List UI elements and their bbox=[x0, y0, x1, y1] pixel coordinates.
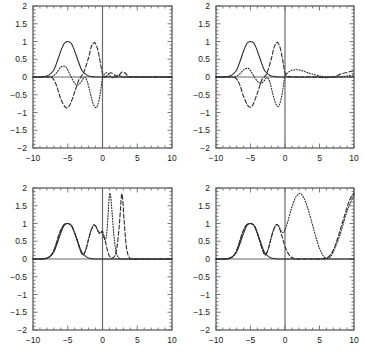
y-tick-label: −0.5 bbox=[193, 90, 210, 100]
plot-panel-bottom-right: 21.510.50−0.5−1−1.5−2−10−50510 bbox=[183, 181, 365, 363]
plot-panel-top-right: 21.510.50−0.5−1−1.5−2−10−50510 bbox=[183, 0, 365, 181]
y-tick-label: −0.5 bbox=[193, 272, 210, 282]
y-tick-label: −1.5 bbox=[193, 307, 210, 317]
x-tick-label: 0 bbox=[100, 335, 105, 345]
y-tick-label: 1.5 bbox=[198, 19, 210, 29]
y-tick-label: −0.5 bbox=[10, 90, 27, 100]
y-tick-label: 1 bbox=[205, 219, 210, 229]
y-tick-label: 2 bbox=[22, 1, 27, 11]
y-tick-label: 1.5 bbox=[15, 201, 27, 211]
x-tick-label: 5 bbox=[135, 335, 140, 345]
y-tick-label: −1 bbox=[17, 108, 27, 118]
x-tick-label: 10 bbox=[349, 335, 359, 345]
x-tick-label: −10 bbox=[26, 335, 41, 345]
y-tick-label: 0 bbox=[22, 72, 27, 82]
chart-bottom-left: 21.510.50−0.5−1−1.5−2−10−50510 bbox=[0, 181, 183, 363]
x-tick-label: −5 bbox=[246, 335, 256, 345]
x-tick-label: 0 bbox=[283, 335, 288, 345]
y-tick-label: 0 bbox=[22, 254, 27, 264]
y-tick-label: 1 bbox=[22, 37, 27, 47]
y-tick-label: −0.5 bbox=[10, 272, 27, 282]
y-tick-label: 2 bbox=[205, 1, 210, 11]
y-tick-label: −1.5 bbox=[10, 307, 27, 317]
y-tick-label: −1 bbox=[200, 108, 210, 118]
x-tick-label: 5 bbox=[317, 335, 322, 345]
x-tick-label: −10 bbox=[26, 153, 41, 163]
chart-top-left: 21.510.50−0.5−1−1.5−2−10−50510 bbox=[0, 0, 183, 181]
x-tick-label: 5 bbox=[135, 153, 140, 163]
y-tick-label: 1.5 bbox=[15, 19, 27, 29]
y-tick-label: 0 bbox=[205, 72, 210, 82]
x-tick-label: 5 bbox=[317, 153, 322, 163]
y-tick-label: 1.5 bbox=[198, 201, 210, 211]
x-tick-label: 10 bbox=[349, 153, 359, 163]
y-tick-label: −2 bbox=[200, 143, 210, 153]
x-tick-label: −5 bbox=[63, 153, 73, 163]
x-tick-label: −5 bbox=[63, 335, 73, 345]
x-tick-label: −5 bbox=[246, 153, 256, 163]
y-tick-label: −2 bbox=[17, 325, 27, 335]
x-tick-label: −10 bbox=[209, 153, 224, 163]
chart-bottom-right: 21.510.50−0.5−1−1.5−2−10−50510 bbox=[183, 181, 365, 363]
y-tick-label: 2 bbox=[22, 183, 27, 193]
figure-panel-grid: 21.510.50−0.5−1−1.5−2−10−50510 21.510.50… bbox=[0, 0, 365, 363]
x-tick-label: 10 bbox=[167, 153, 177, 163]
x-tick-label: 0 bbox=[283, 153, 288, 163]
y-tick-label: 0.5 bbox=[198, 236, 210, 246]
chart-top-right: 21.510.50−0.5−1−1.5−2−10−50510 bbox=[183, 0, 365, 181]
x-tick-label: 0 bbox=[100, 153, 105, 163]
y-tick-label: 1 bbox=[205, 37, 210, 47]
y-tick-label: −1.5 bbox=[10, 125, 27, 135]
y-tick-label: 2 bbox=[205, 183, 210, 193]
x-tick-label: 10 bbox=[167, 335, 177, 345]
y-tick-label: −2 bbox=[17, 143, 27, 153]
plot-panel-top-left: 21.510.50−0.5−1−1.5−2−10−50510 bbox=[0, 0, 183, 181]
plot-panel-bottom-left: 21.510.50−0.5−1−1.5−2−10−50510 bbox=[0, 181, 183, 363]
y-tick-label: 0.5 bbox=[15, 54, 27, 64]
y-tick-label: −1 bbox=[17, 290, 27, 300]
y-tick-label: −1 bbox=[200, 290, 210, 300]
y-tick-label: 1 bbox=[22, 219, 27, 229]
x-tick-label: −10 bbox=[209, 335, 224, 345]
y-tick-label: −1.5 bbox=[193, 125, 210, 135]
y-tick-label: 0 bbox=[205, 254, 210, 264]
y-tick-label: 0.5 bbox=[15, 236, 27, 246]
y-tick-label: 0.5 bbox=[198, 54, 210, 64]
y-tick-label: −2 bbox=[200, 325, 210, 335]
